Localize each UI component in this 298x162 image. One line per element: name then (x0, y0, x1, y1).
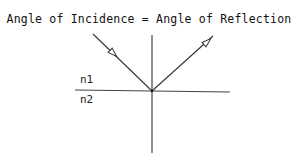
medium-label-n2: n2 (80, 93, 93, 106)
incidence-point (151, 90, 153, 92)
incident-ray (93, 34, 152, 91)
reflection-diagram (0, 0, 298, 162)
medium-label-n1: n1 (80, 73, 93, 86)
reflected-arrow-icon (202, 36, 213, 46)
